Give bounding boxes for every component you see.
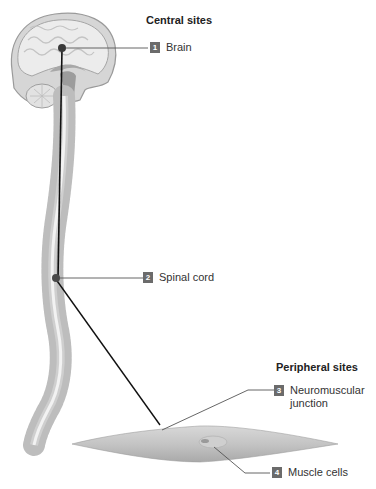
label-number-badge: 2 (143, 272, 153, 283)
label-text: Spinal cord (159, 271, 214, 284)
leader-lines (60, 48, 275, 473)
central-sites-heading: Central sites (146, 14, 212, 26)
peripheral-sites-heading: Peripheral sites (276, 361, 358, 373)
anatomy-illustration (0, 0, 376, 489)
diagram-canvas: Central sites Peripheral sites 1 Brain 2… (0, 0, 376, 489)
label-text: Neuromuscular junction (290, 384, 365, 410)
label-brain: 1 Brain (150, 41, 192, 54)
label-number-badge: 3 (274, 385, 284, 396)
label-spinal-cord: 2 Spinal cord (143, 271, 214, 284)
spinal-cord-site-marker (52, 274, 60, 282)
muscle-cell-icon (72, 426, 338, 462)
label-muscle-cells: 4 Muscle cells (272, 466, 348, 479)
label-text: Muscle cells (288, 466, 348, 479)
label-text: Brain (166, 41, 192, 54)
label-neuromuscular-junction: 3 Neuromuscular junction (274, 384, 365, 410)
label-number-badge: 4 (272, 467, 282, 478)
label-number-badge: 1 (150, 42, 160, 53)
brain-site-marker (58, 44, 66, 52)
